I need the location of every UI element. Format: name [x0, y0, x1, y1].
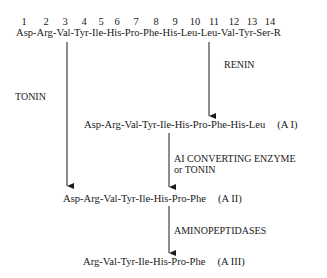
angiotensin-iii-tag: (A III): [217, 256, 244, 267]
converting-enzyme-alt-label: or TONIN: [174, 164, 216, 176]
tonin-label: TONIN: [15, 91, 46, 103]
angiotensin-i: Asp-Arg-Val-Tyr-Ile-His-Pro-Phe-His-Leu(…: [84, 119, 298, 131]
angiotensin-ii-tag: (A II): [218, 193, 242, 204]
angiotensin-ii-sequence: Asp-Arg-Val-Tyr-Ile-His-Pro-Phe: [63, 193, 206, 204]
angiotensin-i-tag: (A I): [277, 119, 297, 130]
angiotensin-i-sequence: Asp-Arg-Val-Tyr-Ile-His-Pro-Phe-His-Leu: [84, 119, 265, 130]
angiotensin-iii: Arg-Val-Tyr-Ile-His-Pro-Phe(A III): [83, 256, 245, 268]
aminopeptidases-label: AMINOPEPTIDASES: [174, 225, 266, 237]
renin-label: RENIN: [224, 59, 255, 71]
reaction-arrows: [0, 0, 327, 278]
angiotensin-ii: Asp-Arg-Val-Tyr-Ile-His-Pro-Phe(A II): [63, 193, 242, 205]
angiotensin-iii-sequence: Arg-Val-Tyr-Ile-His-Pro-Phe: [83, 256, 205, 267]
